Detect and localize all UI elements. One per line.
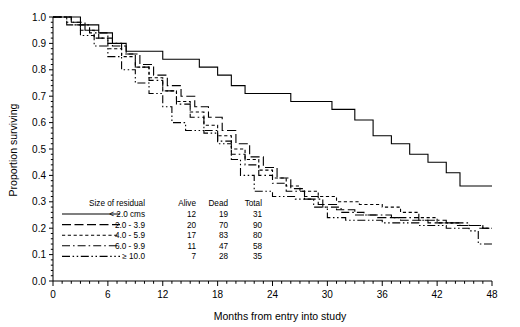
legend-row-total: 35: [253, 252, 263, 261]
y-tick-label: 0.9: [32, 38, 46, 49]
x-tick-label: 48: [486, 289, 498, 300]
legend-row-alive: 17: [187, 231, 197, 240]
x-tick-label: 36: [377, 289, 389, 300]
legend-row-label: < 2.0 cms: [109, 210, 145, 219]
legend-row-total: 58: [253, 242, 263, 251]
y-tick-label: 1.0: [32, 12, 46, 23]
legend-row-dead: 19: [219, 210, 229, 219]
y-axis-title: Proportion surviving: [7, 103, 19, 196]
y-tick-label: 0.7: [32, 91, 46, 102]
legend-row-alive: 11: [188, 242, 197, 251]
legend-header-series: Size of residual: [89, 199, 145, 208]
legend-header-total: Total: [245, 199, 262, 208]
legend-row-total: 31: [253, 210, 263, 219]
y-tick-label: 0.1: [32, 249, 46, 260]
legend-row-dead: 47: [219, 242, 229, 251]
legend-header-dead: Dead: [208, 199, 228, 208]
x-tick-label: 18: [212, 289, 224, 300]
y-tick-label: 0.5: [32, 144, 46, 155]
chart-background: [0, 0, 520, 327]
legend-row-label: ≥ 10.0: [122, 252, 145, 261]
legend-row-dead: 83: [219, 231, 229, 240]
x-axis-title: Months from entry into study: [214, 310, 347, 322]
legend-row-dead: 28: [219, 252, 229, 261]
legend-row-label: 2.0 - 3.9: [115, 221, 145, 230]
y-tick-label: 0.6: [32, 117, 46, 128]
legend-row-total: 90: [253, 221, 263, 230]
x-tick-label: 24: [267, 289, 279, 300]
legend-row-alive: 20: [187, 221, 197, 230]
y-tick-label: 0.0: [32, 276, 46, 287]
legend-row-label: 4.0 - 5.9: [115, 231, 145, 240]
x-tick-label: 6: [105, 289, 111, 300]
legend-row-label: 6.0 - 9.9: [115, 242, 145, 251]
x-tick-label: 30: [322, 289, 334, 300]
legend-row-alive: 7: [191, 252, 196, 261]
legend-row-dead: 70: [219, 221, 229, 230]
chart-canvas: 0.00.10.20.30.40.50.60.70.80.91.0 061218…: [0, 0, 520, 327]
x-tick-label: 0: [50, 289, 56, 300]
x-tick-label: 42: [432, 289, 444, 300]
y-tick-label: 0.4: [32, 170, 46, 181]
legend-header-alive: Alive: [178, 199, 196, 208]
y-tick-label: 0.3: [32, 196, 46, 207]
x-tick-label: 12: [157, 289, 169, 300]
y-tick-label: 0.8: [32, 64, 46, 75]
legend-row-total: 80: [253, 231, 263, 240]
y-tick-label: 0.2: [32, 223, 46, 234]
survival-chart: 0.00.10.20.30.40.50.60.70.80.91.0 061218…: [0, 0, 520, 327]
legend-row-alive: 12: [187, 210, 197, 219]
